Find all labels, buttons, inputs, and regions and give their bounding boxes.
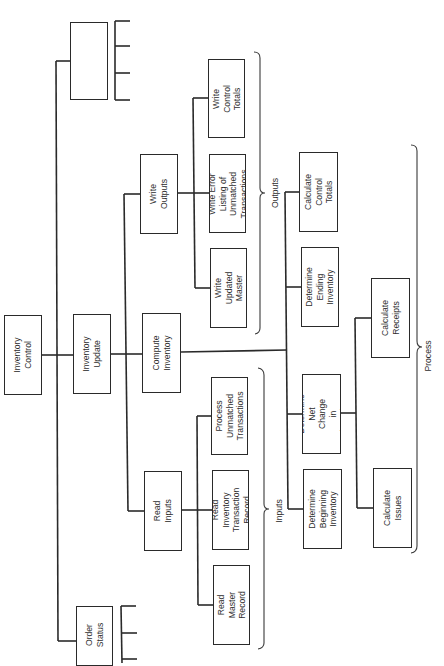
box-write-error-listing: Write Error Listing of Unmatched Transac… (209, 154, 246, 233)
box-write-outputs: Write Outputs (140, 154, 178, 234)
box-label: Inventory Update (81, 336, 102, 371)
box-determine-net-change: Determine Net Change in Inventory (302, 374, 341, 454)
box-calculate-control-totals: Calculate Control Totals (299, 152, 338, 232)
box-determine-beginning-inventory: Determine Beginning Inventory (303, 469, 342, 549)
box-label: Determine Net Change in Inventory (302, 394, 341, 434)
box-unnamed-system (70, 22, 108, 100)
box-compute-inventory: Compute Inventory (142, 313, 181, 393)
box-label: Compute Inventory (151, 335, 172, 370)
box-label: Write Error Listing of Unmatched Transac… (209, 169, 246, 218)
box-read-master-record: Read Master Record (213, 565, 250, 645)
box-label: Read Inventory Transaction Record (212, 488, 249, 533)
box-label: Read Master Record (216, 591, 248, 619)
box-label: Read Inputs (152, 499, 173, 522)
box-label: Calculate Issues (382, 490, 403, 526)
box-label: Process Unmatched Transactions (214, 392, 246, 441)
box-inventory-update: Inventory Update (73, 314, 111, 394)
box-calculate-issues: Calculate Issues (373, 468, 412, 548)
box-label: Inventory Control (12, 337, 33, 372)
box-label: Order Status (84, 623, 105, 647)
box-inventory-control: Inventory Control (4, 315, 42, 395)
group-label-inputs: Inputs (274, 499, 284, 522)
box-label: Determine Ending Inventory (304, 267, 336, 307)
box-process-unmatched-transactions: Process Unmatched Transactions (211, 377, 248, 455)
box-calculate-receipts: Calculate Receipts (371, 278, 410, 358)
box-order-status: Order Status (76, 606, 113, 666)
box-label: Calculate Control Totals (303, 174, 335, 210)
box-label: Write Control Totals (211, 85, 243, 113)
box-determine-ending-inventory: Determine Ending Inventory (301, 247, 339, 327)
group-label-process: Process (423, 340, 433, 371)
box-label: Write Updated Master (213, 272, 245, 305)
box-read-inputs: Read Inputs (144, 471, 182, 551)
box-label: Write Outputs (148, 179, 169, 209)
box-write-control-totals: Write Control Totals (208, 59, 245, 138)
box-read-inventory-transaction-record: Read Inventory Transaction Record (212, 470, 249, 550)
box-label: Determine Beginning Inventory (307, 489, 339, 529)
box-label: Calculate Receipts (380, 300, 401, 336)
group-label-outputs: Outputs (270, 178, 280, 208)
box-write-updated-master: Write Updated Master (210, 248, 247, 328)
